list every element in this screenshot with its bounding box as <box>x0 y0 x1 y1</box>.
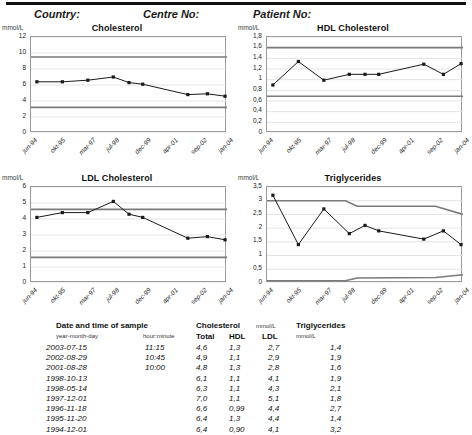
x-axis-tick-label: jun-94 <box>257 137 274 154</box>
data-point-marker <box>442 229 445 232</box>
data-point-marker <box>112 200 115 203</box>
header-cholesterol-unit: mmol/L <box>256 323 276 329</box>
y-axis-tick-label: 3 <box>2 231 26 238</box>
data-point-marker <box>442 73 445 76</box>
cell-ldl: 4,4 <box>268 405 279 413</box>
data-point-marker <box>422 238 425 241</box>
header-triglycerides-unit: mmol/L <box>296 333 316 339</box>
data-point-marker <box>271 83 274 86</box>
chart-title: Triglycerides <box>238 173 468 183</box>
y-axis-tick-label: 6 <box>2 183 26 190</box>
cell-hdl: 0,99 <box>229 405 245 413</box>
cell-hdl: 1,1 <box>229 375 240 383</box>
y-axis-tick-label: 0,6 <box>238 97 262 104</box>
y-axis-tick-label: 4 <box>2 215 26 222</box>
data-point-marker <box>271 194 274 197</box>
y-axis-tick-label: 1,6 <box>238 43 262 50</box>
y-axis-tick-label: 1 <box>238 251 262 258</box>
series-line <box>37 201 225 239</box>
x-axis-tick-label: apr-01 <box>161 137 179 155</box>
x-axis-tick-label: sep-02 <box>426 287 445 306</box>
x-axis-tick-label: jan-04 <box>217 287 234 304</box>
x-axis-tick-label: okt-95 <box>285 287 302 304</box>
cell-total: 6,1 <box>196 375 207 383</box>
chart-cholesterol: mmol/LCholesterol024681012jun-94okt-95ma… <box>2 24 232 174</box>
y-axis-tick-label: 5 <box>2 199 26 206</box>
cell-hdl: 0,90 <box>229 426 245 434</box>
cell-date: 1998-05-14 <box>46 385 87 393</box>
y-axis-tick-label: 1,8 <box>238 33 262 40</box>
cell-time: 11:15 <box>145 344 164 352</box>
data-point-marker <box>206 235 209 238</box>
cell-total: 4,6 <box>196 344 207 352</box>
data-point-marker <box>127 213 130 216</box>
data-point-marker <box>348 73 351 76</box>
x-axis-tick-label: mar-97 <box>78 287 97 306</box>
x-axis-tick-label: jul-98 <box>341 287 357 303</box>
header-col-total: Total <box>196 333 215 341</box>
y-axis-tick-label: 8 <box>2 65 26 72</box>
data-point-marker <box>127 81 130 84</box>
x-axis-tick-label: jul-98 <box>105 287 121 303</box>
y-axis-tick-label: 12 <box>2 33 26 40</box>
y-axis-tick-label: 6 <box>2 81 26 88</box>
cell-hdl: 1,1 <box>229 354 240 362</box>
x-axis-tick-label: jan-04 <box>217 137 234 154</box>
x-axis-tick-label: dec-99 <box>370 137 389 156</box>
data-point-marker <box>223 238 226 241</box>
header-time-sub: hour:minute <box>143 333 175 339</box>
x-axis-tick-label: okt-95 <box>49 287 66 304</box>
cell-date: 1996-11-18 <box>46 405 86 413</box>
data-point-marker <box>322 207 325 210</box>
data-point-marker <box>35 216 38 219</box>
top-divider <box>6 2 466 5</box>
data-point-marker <box>459 243 462 246</box>
cell-date: 1994-12-01 <box>46 426 87 434</box>
x-axis-tick-label: jul-98 <box>105 137 121 153</box>
y-axis-tick-label: 0 <box>238 279 262 286</box>
cell-triglycerides: 2,1 <box>330 385 341 393</box>
y-axis-tick-label: 0,2 <box>238 118 262 125</box>
cell-date: 2002-08-29 <box>46 354 87 362</box>
series-line <box>273 195 461 244</box>
data-point-marker <box>297 60 300 63</box>
cell-total: 4,9 <box>196 354 207 362</box>
cell-triglycerides: 1,4 <box>330 344 341 352</box>
y-axis-tick-label: 3 <box>238 196 262 203</box>
cell-ldl: 2,7 <box>268 344 279 352</box>
data-point-marker <box>322 79 325 82</box>
x-axis-tick-label: dec-99 <box>370 287 389 306</box>
data-point-marker <box>61 211 64 214</box>
x-axis-tick-label: apr-01 <box>161 287 179 305</box>
data-point-marker <box>377 229 380 232</box>
x-axis-tick-label: jun-94 <box>21 137 38 154</box>
y-axis-tick-label: 2,5 <box>238 210 262 217</box>
cell-hdl: 1,3 <box>229 415 240 423</box>
x-axis-tick-label: jan-04 <box>453 287 470 304</box>
cell-ldl: 4,4 <box>268 415 279 423</box>
cell-total: 6,3 <box>196 385 207 393</box>
cell-triglycerides: 1,8 <box>330 395 341 403</box>
plot-area <box>266 36 462 132</box>
y-axis-tick-label: 3,5 <box>238 183 262 190</box>
y-axis-tick-label: 2 <box>2 247 26 254</box>
y-axis-tick-label: 0 <box>238 129 262 136</box>
cell-hdl: 1,1 <box>229 395 240 403</box>
series-line <box>273 62 461 85</box>
data-point-marker <box>459 62 462 65</box>
x-axis-tick-label: dec-99 <box>134 287 153 306</box>
x-axis-tick-label: jan-04 <box>453 137 470 154</box>
header-date-sub: year-month-day <box>56 333 98 339</box>
y-axis-tick-label: 1 <box>238 75 262 82</box>
centre-no-label: Centre No: <box>143 8 199 20</box>
data-point-marker <box>363 224 366 227</box>
chart-hdl-cholesterol: mmol/LHDL Cholesterol00,20,40,60,811,21,… <box>238 24 468 174</box>
cell-triglycerides: 1,4 <box>330 415 341 423</box>
y-axis-tick-label: 2 <box>2 113 26 120</box>
x-axis-tick-label: okt-95 <box>285 137 302 154</box>
data-point-marker <box>206 92 209 95</box>
y-axis-tick-label: 1 <box>2 263 26 270</box>
cell-ldl: 4,1 <box>268 375 279 383</box>
x-axis-tick-label: apr-01 <box>397 137 415 155</box>
chart-title: LDL Cholesterol <box>2 173 232 183</box>
